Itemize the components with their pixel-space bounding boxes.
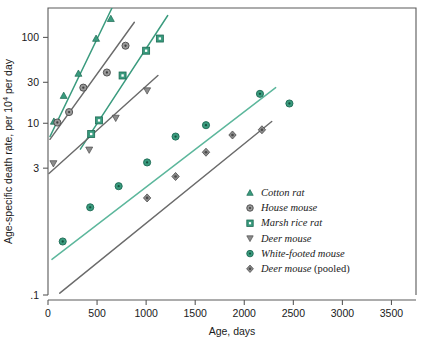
legend-marker-marsh-rice-rat [247, 220, 253, 226]
data-point-marsh-rice-rat [96, 117, 103, 124]
data-point-deer-mouse [86, 147, 93, 153]
fit-line-deer-mouse [49, 76, 158, 174]
fit-line-white-footed-mouse [52, 88, 276, 260]
y-axis-title: Age-specific death rate, per 104 per day [1, 58, 15, 244]
y-tick-label: .1 [30, 289, 39, 301]
data-point-white-footed-mouse [172, 133, 179, 140]
x-tick-label: 2500 [282, 307, 306, 319]
legend-item-deer-mouse[interactable] [247, 236, 253, 242]
data-point-deer-mouse-pooled [143, 194, 150, 202]
data-point-deer-mouse-pooled [172, 172, 179, 180]
data-point-marsh-rice-rat [156, 35, 163, 42]
data-point-marsh-rice-rat [88, 130, 95, 137]
legend-label-house-mouse: House mouse [260, 202, 318, 213]
legend-marker-cotton-rat [247, 190, 253, 196]
data-point-deer-mouse-pooled [202, 148, 209, 156]
data-point-white-footed-mouse [256, 90, 263, 97]
data-point-deer-mouse [50, 161, 57, 167]
data-point-house-mouse [66, 109, 73, 116]
legend-marker-deer-mouse [247, 236, 253, 242]
legend-label-white-footed-mouse: White-footed mouse [261, 248, 345, 259]
legend-label-deer-mouse-pooled: Deer mouse (pooled) [260, 263, 350, 275]
legend-label-marsh-rice-rat: Marsh rice rat [260, 217, 323, 228]
legend-item-house-mouse[interactable] [247, 205, 254, 212]
data-point-cotton-rat [60, 92, 67, 98]
data-point-house-mouse [103, 69, 110, 76]
legend-marker-white-footed-mouse [247, 250, 254, 257]
y-tick-label: 30 [27, 76, 39, 88]
figure-container: 050010001500200025003000350010030103.1Ag… [0, 0, 428, 341]
x-tick-label: 500 [88, 307, 106, 319]
x-tick-label: 1500 [184, 307, 208, 319]
data-point-house-mouse [122, 42, 129, 49]
y-tick-label: 100 [21, 31, 39, 43]
fit-line-house-mouse [50, 22, 134, 139]
x-axis-title: Age, days [209, 325, 256, 337]
data-point-white-footed-mouse [144, 159, 151, 166]
x-tick-label: 0 [45, 307, 51, 319]
data-point-white-footed-mouse [87, 204, 94, 211]
data-point-white-footed-mouse [115, 183, 122, 190]
legend-item-cotton-rat[interactable] [247, 190, 253, 196]
legend-label-cotton-rat: Cotton rat [261, 187, 306, 198]
legend: Cotton ratHouse mouseMarsh rice ratDeer … [247, 187, 351, 275]
legend-item-deer-mouse-pooled[interactable] [247, 265, 254, 272]
legend-marker-deer-mouse-pooled [247, 265, 254, 272]
data-point-white-footed-mouse [59, 238, 66, 245]
legend-label-deer-mouse: Deer mouse [260, 233, 312, 244]
y-tick-label: 3 [33, 162, 39, 174]
data-point-marsh-rice-rat [119, 72, 126, 79]
data-point-house-mouse [80, 84, 87, 91]
x-tick-label: 1000 [134, 307, 158, 319]
data-point-deer-mouse [112, 115, 119, 121]
data-layer [49, 6, 293, 293]
data-point-white-footed-mouse [286, 100, 293, 107]
data-point-house-mouse [54, 119, 61, 126]
scatter-plot: 050010001500200025003000350010030103.1Ag… [0, 0, 428, 341]
legend-item-marsh-rice-rat[interactable] [247, 220, 253, 226]
y-tick-label: 10 [27, 117, 39, 129]
data-point-deer-mouse [144, 88, 151, 94]
x-tick-label: 2000 [233, 307, 257, 319]
x-tick-label: 3000 [331, 307, 355, 319]
legend-item-white-footed-mouse[interactable] [247, 250, 254, 257]
data-point-deer-mouse-pooled [229, 131, 236, 139]
legend-marker-house-mouse [247, 205, 254, 212]
plot-frame [48, 8, 416, 295]
data-point-marsh-rice-rat [143, 47, 150, 54]
x-tick-label: 3500 [380, 307, 404, 319]
data-point-white-footed-mouse [202, 122, 209, 129]
